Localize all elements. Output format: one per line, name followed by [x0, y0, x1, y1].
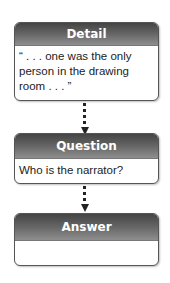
arrow-down-icon — [81, 204, 89, 212]
dotted-arrow-connector — [80, 103, 89, 135]
question-header: Question — [15, 134, 158, 159]
answer-header: Answer — [15, 214, 158, 241]
question-box: Question Who is the narrator? — [14, 133, 159, 184]
question-text: Who is the narrator? — [15, 159, 158, 181]
dotted-arrow-connector — [80, 186, 89, 212]
answer-box: Answer — [14, 213, 159, 266]
answer-text — [15, 241, 158, 247]
detail-text: “ . . . one was the only person in the d… — [15, 46, 158, 97]
detail-box: Detail “ . . . one was the only person i… — [14, 22, 159, 101]
detail-header: Detail — [15, 23, 158, 46]
